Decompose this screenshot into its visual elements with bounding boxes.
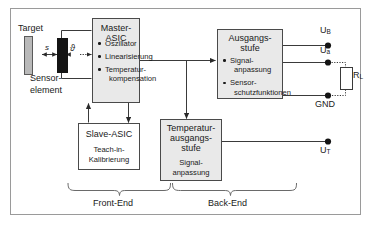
section-label-front-end: Front-End bbox=[93, 198, 133, 208]
output-bullet-schutz-line1: Sensor- bbox=[230, 78, 257, 87]
load-resistor-label: RL bbox=[353, 70, 363, 80]
load-resistor-label-sub: L bbox=[360, 73, 364, 80]
slave-asic-title: Slave-ASIC bbox=[79, 129, 139, 139]
brace-front-end bbox=[68, 183, 171, 196]
diagram-vector-layer bbox=[0, 0, 373, 227]
target-label: Target bbox=[18, 23, 43, 33]
section-label-back-end: Back-End bbox=[208, 198, 247, 208]
output-bullet-signalanpassung: Signal- anpassung bbox=[223, 56, 280, 75]
temp-stage-sub-line1: Signal- bbox=[161, 158, 221, 167]
block-slave-asic[interactable]: Slave-ASIC Teach-in- Kalibrierung bbox=[78, 123, 140, 170]
master-bullet-temp-line2: kompensation bbox=[105, 74, 137, 83]
terminal-label-ua-sub: a bbox=[327, 48, 331, 55]
block-temperatur-ausgangsstufe[interactable]: Temperatur- ausgangs- stufe Signal- anpa… bbox=[160, 119, 222, 181]
terminal-label-ua: Ua bbox=[320, 45, 330, 55]
temp-stage-title-line3: stufe bbox=[161, 143, 221, 153]
terminal-dot-ua[interactable] bbox=[325, 59, 331, 65]
terminal-label-ub-sub: B bbox=[327, 28, 331, 35]
temp-stage-title-line2: ausgangs- bbox=[161, 133, 221, 143]
output-bullet-signal-line2: anpassung bbox=[230, 65, 280, 74]
temperature-symbol-label: ϑ bbox=[70, 43, 75, 53]
target-bar bbox=[24, 36, 33, 75]
master-bullet-temperaturkompensation: Temperatur- kompensation bbox=[98, 65, 137, 84]
output-bullet-schutz-line2: schutzfunktionen bbox=[230, 88, 280, 97]
sensor-element-label-line1: Sensor- bbox=[30, 73, 62, 83]
sensor-element-bar bbox=[57, 38, 68, 73]
master-bullet-temp-line1: Temperatur- bbox=[105, 65, 146, 74]
output-bullet-signal-line1: Signal- bbox=[230, 56, 254, 65]
distance-symbol-label: s bbox=[45, 43, 49, 52]
master-bullet-linearisierung: Linearisierung bbox=[98, 52, 137, 61]
diagram-canvas: Target s ϑ Sensor- element Master-ASIC O… bbox=[0, 0, 373, 227]
terminal-dots bbox=[325, 42, 331, 144]
master-bullet-oszillator: Oszillator bbox=[98, 39, 137, 48]
terminal-label-gnd: GND bbox=[315, 99, 335, 109]
slave-asic-sub-line2: Kalibrierung bbox=[79, 155, 139, 164]
terminal-dot-ut[interactable] bbox=[325, 138, 331, 144]
output-bullet-schutzfunktionen: Sensor- schutzfunktionen bbox=[223, 78, 280, 97]
temp-stage-sub-line2: anpassung bbox=[161, 168, 221, 177]
load-resistor-symbol bbox=[340, 67, 353, 90]
terminal-label-ut: UT bbox=[320, 145, 330, 155]
master-bullet-linearisierung-line1: Linearisierung bbox=[105, 52, 153, 61]
output-stage-title-line1: Ausgangs- bbox=[218, 33, 282, 43]
master-bullet-oszillator-line1: Oszillator bbox=[105, 39, 137, 48]
temp-stage-title-line1: Temperatur- bbox=[161, 123, 221, 133]
terminal-label-ut-sub: T bbox=[327, 148, 331, 155]
block-master-asic[interactable]: Master-ASIC Oszillator Linearisierung Te… bbox=[92, 18, 140, 103]
terminal-label-ub: UB bbox=[320, 25, 331, 35]
terminal-dot-gnd[interactable] bbox=[325, 92, 331, 98]
slave-asic-sub-line1: Teach-in- bbox=[79, 145, 139, 154]
brace-back-end bbox=[173, 183, 297, 196]
output-stage-title-line2: stufe bbox=[218, 43, 282, 53]
sensor-element-label-line2: element bbox=[30, 85, 62, 95]
block-ausgangsstufe[interactable]: Ausgangs- stufe Signal- anpassung Sensor… bbox=[217, 29, 283, 99]
